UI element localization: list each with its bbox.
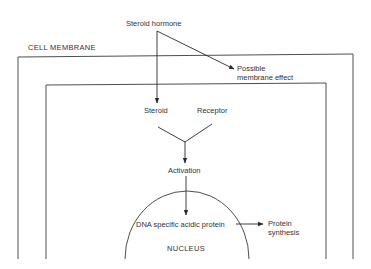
label-steroid: Steroid (144, 106, 168, 115)
line-receptor-to-junction (185, 124, 212, 142)
label-possible: Possible (237, 64, 265, 73)
label-synthesis: synthesis (268, 228, 299, 237)
label-membrane-effect: membrane effect (237, 73, 293, 82)
line-steroid-to-junction (158, 127, 185, 142)
label-protein: Protein (268, 219, 292, 228)
label-activation: Activation (168, 166, 201, 175)
label-receptor: Receptor (197, 106, 227, 115)
label-nucleus: NUCLEUS (167, 244, 205, 253)
label-steroid-hormone: Steroid hormone (126, 19, 181, 28)
arrow-hormone-to-membrane-effect (157, 31, 234, 69)
label-dna-specific-acidic-protein: DNA specific acidic protein (136, 220, 225, 229)
label-cell-membrane: CELL MEMBRANE (28, 43, 96, 52)
